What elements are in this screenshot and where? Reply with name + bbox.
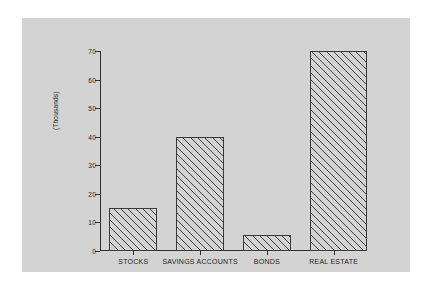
x-category-label: SAVINGS ACCOUNTS (162, 258, 237, 265)
y-tick-label: 10 (88, 219, 96, 226)
y-axis-title: (Thousands) (52, 91, 59, 130)
x-tick-mark (133, 251, 134, 255)
y-tick-label: 30 (88, 162, 96, 169)
y-tick-label: 70 (88, 48, 96, 55)
y-tick-label: 50 (88, 105, 96, 112)
bar-chart-figure: (Thousands) 010203040506070 STOCKSSAVING… (0, 0, 431, 288)
x-tick-mark (200, 251, 201, 255)
bar (310, 51, 367, 251)
y-axis-line (100, 51, 101, 251)
y-tick-label: 0 (92, 248, 96, 255)
plot-area: 010203040506070 STOCKSSAVINGS ACCOUNTSBO… (100, 51, 367, 251)
bar (176, 137, 224, 251)
x-tick-mark (334, 251, 335, 255)
y-tick-label: 20 (88, 190, 96, 197)
y-tick-label: 40 (88, 133, 96, 140)
x-tick-mark (267, 251, 268, 255)
x-category-label: REAL ESTATE (309, 258, 358, 265)
bar (243, 235, 291, 251)
x-category-label: STOCKS (118, 258, 148, 265)
x-category-label: BONDS (254, 258, 280, 265)
bar (109, 208, 157, 251)
y-tick-label: 60 (88, 76, 96, 83)
